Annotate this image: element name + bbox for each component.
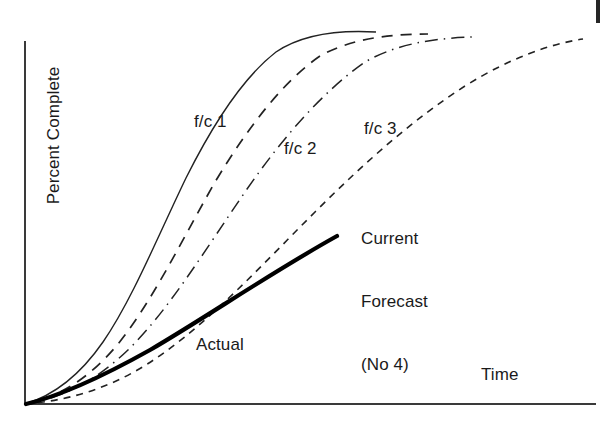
series-current-forecast-line: [25, 39, 583, 404]
series-label-current-forecast-line1: Current: [361, 228, 428, 249]
s-curve-forecast-chart: Percent Complete Time f/c 1 f/c 2 f/c 3 …: [0, 0, 608, 422]
series-label-fc1: f/c 1: [194, 111, 227, 132]
series-label-actual: Actual: [196, 334, 244, 355]
chart-plot-area: [0, 0, 608, 422]
page-edge-mark: [596, 0, 600, 23]
series-label-fc3: f/c 3: [364, 118, 397, 139]
x-axis-label: Time: [481, 364, 519, 385]
series-actual-line: [26, 236, 337, 404]
y-axis-label: Percent Complete: [43, 41, 64, 231]
series-label-fc2: f/c 2: [284, 138, 317, 159]
series-label-current-forecast: Current Forecast (No 4): [361, 186, 428, 417]
series-label-current-forecast-line2: Forecast: [361, 291, 428, 312]
series-label-current-forecast-line3: (No 4): [361, 354, 428, 375]
